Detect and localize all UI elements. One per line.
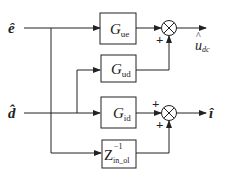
input-label-e: ê: [8, 20, 15, 36]
summing-junction-1: [162, 21, 177, 36]
signal-d-to-gud: [77, 70, 100, 113]
output-label-udc: udc: [195, 38, 210, 54]
block-diagram: ê d̂ Gue Gud Gid Z −1 in_ol + + + ^ udc …: [0, 0, 227, 181]
summing-junction-2: [162, 106, 177, 121]
output-label-i: î: [209, 105, 214, 121]
sign-plus-sum1: +: [156, 32, 163, 47]
signal-zin-to-sum2: [136, 121, 169, 153]
input-label-d: d̂: [8, 104, 16, 121]
block-label-gud: Gud: [111, 61, 131, 79]
block-label-zin-sub: in_ol: [113, 156, 130, 165]
sign-plus-sum2-left: +: [152, 96, 159, 111]
block-label-zin-sup: −1: [114, 142, 123, 151]
block-label-gue: Gue: [110, 21, 129, 39]
block-label-zin: Z: [104, 147, 113, 163]
signal-gud-to-sum1: [136, 36, 169, 70]
sign-plus-sum2-bottom: +: [156, 117, 163, 132]
signal-e-to-zin: [51, 28, 101, 153]
block-label-gid: Gid: [113, 105, 131, 123]
